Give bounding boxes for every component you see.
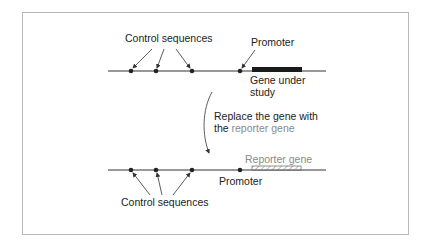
control-site-dot [154,168,159,173]
replace-caption-line2: the reporter gene [214,122,295,134]
control-site-dot [190,168,195,173]
bottom-control-arrows [133,173,190,195]
control-sequences-label-bottom: Control sequences [121,196,209,208]
reporter-gene-label: Reporter gene [245,153,312,165]
top-dna-strand [108,67,326,73]
reporter-gene-bar [252,166,301,171]
replace-caption-prefix: the [214,122,232,134]
bottom-dna-strand [108,166,326,172]
control-site-dot [129,69,134,74]
control-site-dot [129,168,134,173]
promoter-dot [238,69,243,74]
promoter-label-bottom: Promoter [219,175,262,187]
control-site-dot [154,69,159,74]
gene-under-study-label-2: study [250,86,275,98]
top-control-arrows [133,49,255,68]
promoter-dot [238,168,243,173]
control-sequences-label-top: Control sequences [125,32,213,44]
control-site-dot [190,69,195,74]
replace-arrow [204,92,212,153]
replace-caption-line1: Replace the gene with [214,110,318,122]
promoter-label-top: Promoter [251,36,294,48]
reporter-gene-highlight: reporter gene [232,122,295,134]
gene-under-study-label-1: Gene under [250,74,305,86]
gene-under-study-bar [252,67,302,72]
